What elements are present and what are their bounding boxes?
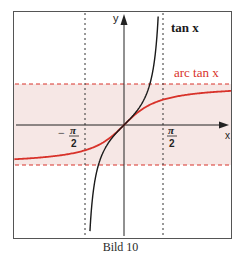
neg-pi-numerator: π	[70, 124, 77, 136]
pos-pi-numerator: π	[168, 124, 175, 136]
plot-svg: y x tan x arc tan x − π 2 π 2	[0, 0, 241, 254]
figure-caption: Bild 10	[0, 240, 241, 254]
arctan-label: arc tan x	[174, 65, 219, 80]
y-axis-arrow-icon	[121, 14, 128, 25]
x-axis-label: x	[225, 130, 230, 141]
pos-pi-denominator: 2	[169, 138, 175, 149]
neg-pi-denominator: 2	[71, 138, 77, 149]
figure: y x tan x arc tan x − π 2 π 2 Bild 10	[0, 0, 241, 254]
neg-sign: −	[58, 126, 65, 140]
tan-label: tan x	[171, 20, 199, 35]
y-axis-label: y	[113, 12, 119, 24]
